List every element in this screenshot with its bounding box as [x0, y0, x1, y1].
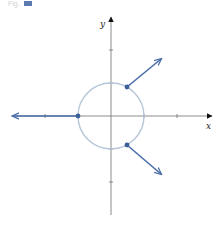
ray-lower-right	[127, 145, 161, 174]
root-locus-diagram: x y	[0, 0, 223, 225]
point-lower	[125, 143, 130, 148]
y-axis-label: y	[99, 19, 106, 29]
x-axis-label: x	[206, 121, 211, 131]
point-upper	[125, 85, 130, 90]
ray-upper-right	[127, 59, 161, 87]
point-left	[76, 114, 81, 119]
